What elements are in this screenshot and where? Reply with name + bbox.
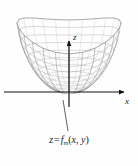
surface-equation-label: z=fm(x, y) xyxy=(0,134,138,146)
equation-lhs: z xyxy=(49,134,53,145)
leader-line xyxy=(63,100,68,131)
equation-comma: , xyxy=(76,134,79,145)
x-axis-label: x xyxy=(125,97,129,106)
surface-plot-figure: z x z=fm(x, y) xyxy=(0,0,138,166)
equation-close-paren: ) xyxy=(85,134,88,145)
equation-equals: = xyxy=(54,134,60,145)
z-axis-label: z xyxy=(73,33,77,42)
